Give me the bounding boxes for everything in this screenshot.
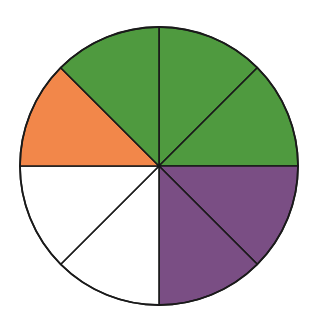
fraction-circle (0, 0, 316, 324)
